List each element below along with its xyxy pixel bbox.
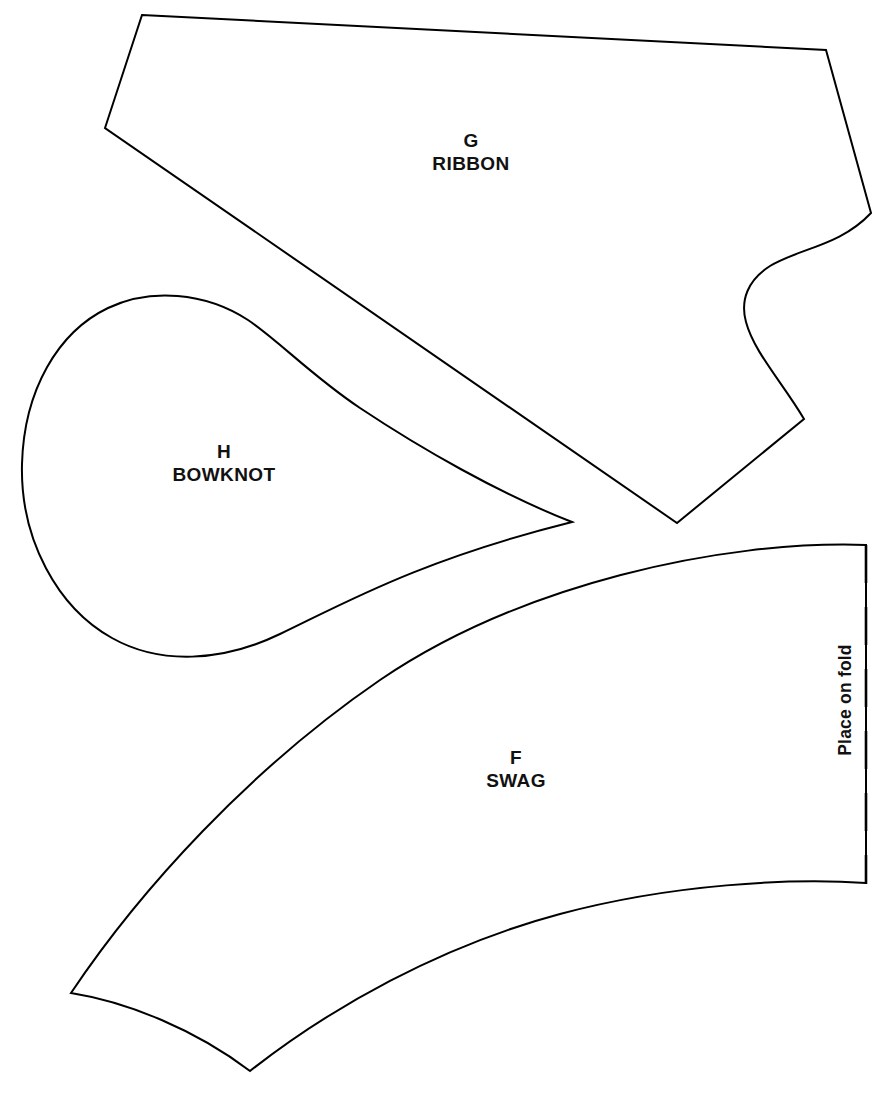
pattern-drawing (0, 0, 888, 1101)
pattern-sheet: G RIBBON H BOWKNOT F SWAG Place on fold (0, 0, 888, 1101)
